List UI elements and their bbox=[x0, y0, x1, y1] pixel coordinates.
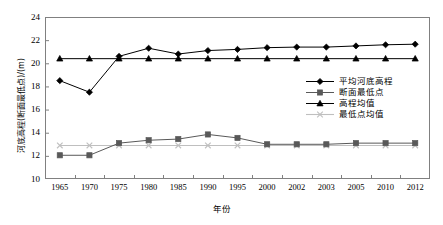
legend-label: 高程均值 bbox=[335, 98, 375, 109]
legend-marker-diamond-icon bbox=[305, 76, 335, 87]
y-tick-label: 16 bbox=[14, 105, 40, 114]
legend-item: 平均河底高程 bbox=[305, 76, 393, 87]
y-tick-label: 22 bbox=[14, 36, 40, 45]
chart-container: 河底高程(断面最低点)/(m) 年份 101214161820222419651… bbox=[0, 0, 443, 225]
y-tick-label: 20 bbox=[14, 59, 40, 68]
legend-item: 高程均值 bbox=[305, 98, 393, 109]
y-tick-label: 14 bbox=[14, 128, 40, 137]
y-tick-label: 10 bbox=[14, 175, 40, 184]
legend-item: 最低点均值 bbox=[305, 109, 393, 120]
x-axis-title: 年份 bbox=[0, 202, 443, 214]
y-tick-label: 18 bbox=[14, 82, 40, 91]
y-tick-label: 24 bbox=[14, 13, 40, 22]
legend-label: 平均河底高程 bbox=[335, 76, 393, 87]
legend-label: 最低点均值 bbox=[335, 109, 384, 120]
chart-legend: 平均河底高程断面最低点高程均值最低点均值 bbox=[305, 76, 393, 120]
legend-marker-square-icon bbox=[305, 87, 335, 98]
legend-marker-triangle-icon bbox=[305, 98, 335, 109]
legend-marker-x-icon bbox=[305, 109, 335, 120]
legend-item: 断面最低点 bbox=[305, 87, 393, 98]
x-tick-label: 2012 bbox=[395, 183, 435, 192]
legend-label: 断面最低点 bbox=[335, 87, 384, 98]
y-tick-label: 12 bbox=[14, 151, 40, 160]
